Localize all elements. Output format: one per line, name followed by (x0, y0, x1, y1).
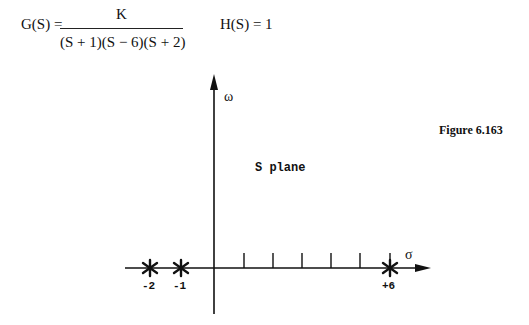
pole-label: -1 (173, 280, 187, 292)
pole-label: -2 (142, 280, 155, 292)
tick-marks (244, 253, 390, 268)
pole-label: +6 (382, 280, 395, 292)
real-axis-arrow-icon (415, 264, 431, 272)
imaginary-axis-arrow-icon (210, 74, 218, 90)
sigma-label: σ (405, 247, 413, 262)
omega-label: ω (224, 89, 233, 104)
root-locus-plot: ω σ -2 -1 +6 (0, 0, 529, 325)
